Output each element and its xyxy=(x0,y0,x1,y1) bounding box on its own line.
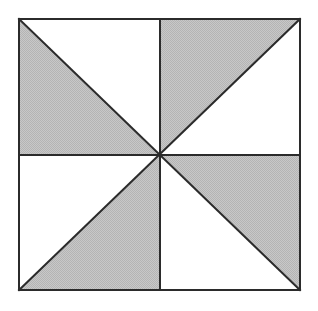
pinwheel-square-figure xyxy=(0,0,318,311)
construction-line-group xyxy=(19,19,300,290)
figure-container xyxy=(0,0,318,311)
